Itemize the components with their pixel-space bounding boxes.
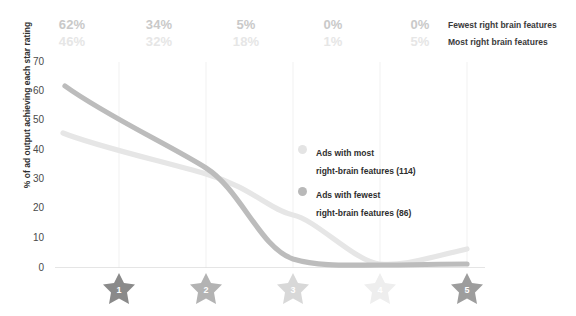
legend-dot-icon (298, 145, 307, 154)
annotation-value: 62% (44, 16, 100, 34)
y-axis-tick: 0 (18, 263, 44, 273)
annotation-value: 18% (218, 33, 274, 51)
annotation-value: 32% (131, 33, 187, 51)
annotation-value: 1% (305, 33, 361, 51)
legend-item-most: Ads with most right-brain features (114) (298, 142, 478, 178)
star-rating-number: 4 (360, 285, 400, 295)
annotation-label-most: Most right brain features (448, 33, 548, 51)
x-axis-star-3: 3 (273, 272, 313, 310)
x-axis: 1 2 3 4 5 (55, 272, 485, 312)
x-axis-star-2: 2 (186, 272, 226, 310)
x-axis-star-4: 4 (360, 272, 400, 310)
annotation-value: 5% (218, 16, 274, 34)
chart-container: 62% 34% 5% 0% 0% Fewest right brain feat… (0, 0, 576, 316)
star-rating-number: 3 (273, 285, 313, 295)
annotation-row-most: 46% 32% 18% 1% 5% Most right brain featu… (0, 33, 576, 51)
legend-item-fewest: Ads with fewest right-brain features (86… (298, 184, 478, 220)
chart-legend: Ads with most right-brain features (114)… (298, 142, 478, 226)
annotation-value: 0% (392, 16, 448, 34)
annotation-value: 46% (44, 33, 100, 51)
legend-item-label: Ads with fewest right-brain features (86… (316, 190, 411, 218)
annotation-value: 0% (305, 16, 361, 34)
annotation-row-fewest: 62% 34% 5% 0% 0% Fewest right brain feat… (0, 16, 576, 34)
annotation-label-fewest: Fewest right brain features (448, 16, 557, 34)
legend-item-label: Ads with most right-brain features (114) (316, 148, 416, 176)
annotation-value: 5% (392, 33, 448, 51)
y-axis-title: % of ad output achieving each star ratin… (22, 10, 32, 200)
star-rating-number: 5 (447, 285, 487, 295)
legend-dot-icon (298, 187, 307, 196)
x-axis-star-5: 5 (447, 272, 487, 310)
annotation-value: 34% (131, 16, 187, 34)
star-rating-number: 1 (99, 285, 139, 295)
star-rating-number: 2 (186, 285, 226, 295)
x-axis-star-1: 1 (99, 272, 139, 310)
y-axis-tick: 20 (18, 203, 44, 213)
y-axis-tick: 10 (18, 233, 44, 243)
